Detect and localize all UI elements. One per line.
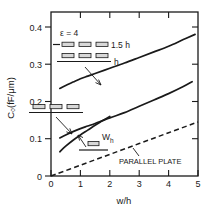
capacitance-chart-figure: 0 1 2 3 4 5 0 0.1 0.2 0.3 0.4 w/h C₀(fF/… xyxy=(0,0,214,209)
x-tick-label-2: 2 xyxy=(107,179,112,189)
x-tick-label-5: 5 xyxy=(195,179,200,189)
x-axis-ticks xyxy=(51,170,198,176)
y-axis-title: C₀(fF/μm) xyxy=(5,77,16,119)
y-axis-ticks-right xyxy=(192,27,198,139)
leader-wh-to-curve xyxy=(78,135,86,147)
leader-mid-to-curve xyxy=(56,117,72,134)
y-tick-label-1: 0.1 xyxy=(29,134,42,144)
inset-label-h: h xyxy=(114,57,119,67)
parallel-plate-label: PARALLEL PLATE xyxy=(119,157,181,166)
inset-label-wh: Wh xyxy=(102,132,114,144)
x-tick-label-0: 0 xyxy=(48,179,53,189)
y-tick-label-4: 0.4 xyxy=(29,23,42,33)
x-axis-title: w/h xyxy=(116,195,132,206)
x-tick-label-3: 3 xyxy=(137,179,142,189)
leader-parallel-plate xyxy=(133,148,139,156)
y-tick-label-0: 0 xyxy=(37,172,42,182)
curve-spacing-h xyxy=(60,82,192,138)
x-tick-label-1: 1 xyxy=(78,179,83,189)
inset-diagram-1.5h xyxy=(53,42,108,46)
y-axis-ticks xyxy=(45,27,51,176)
epsilon-annotation: ε = 4 xyxy=(60,28,78,38)
inset-label-wh-main: W xyxy=(102,132,110,142)
x-axis-ticks-top xyxy=(80,12,168,18)
inset-label-wh-subscript: h xyxy=(110,137,114,144)
inset-diagram-coupled-mid xyxy=(29,105,83,113)
y-tick-label-3: 0.3 xyxy=(29,60,42,70)
curve-parallel-plate xyxy=(51,122,198,176)
chart-canvas: 0 1 2 3 4 5 0 0.1 0.2 0.3 0.4 w/h C₀(fF/… xyxy=(0,0,214,209)
inset-diagram-h xyxy=(57,54,111,62)
inset-label-1.5h: 1.5 h xyxy=(111,40,130,50)
x-tick-label-4: 4 xyxy=(166,179,171,189)
